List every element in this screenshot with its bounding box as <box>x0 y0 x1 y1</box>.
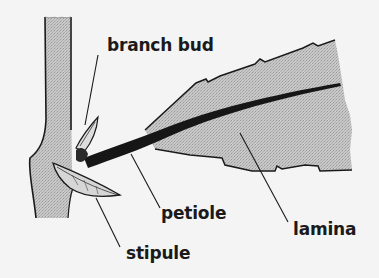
stipule-leader <box>96 198 120 247</box>
label-branch-bud: branch bud <box>107 37 214 54</box>
petiole-leader <box>131 154 160 208</box>
label-stipule: stipule <box>126 245 190 262</box>
label-petiole: petiole <box>161 205 226 222</box>
branch-bud-leader <box>85 55 98 125</box>
label-lamina: lamina <box>293 221 356 238</box>
